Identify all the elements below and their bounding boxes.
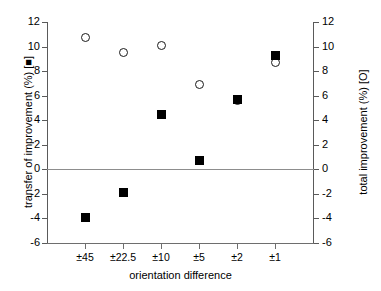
data-point-square-1 <box>119 188 128 197</box>
x-axis-line <box>47 243 314 244</box>
y-tick-right--2 <box>314 194 319 195</box>
x-tick-1 <box>123 244 124 249</box>
y-tick-left--2 <box>42 194 47 195</box>
data-point-square-2 <box>157 110 166 119</box>
y-tick-right-4 <box>314 120 319 121</box>
x-tick-label-1: ±22.5 <box>110 252 136 263</box>
y-tick-left--4 <box>42 218 47 219</box>
y-tick-label-left-12: 12 <box>28 16 40 27</box>
x-tick-label-0: ±45 <box>76 252 93 263</box>
y-tick-label-right--2: -2 <box>322 188 332 199</box>
y-tick-right-0 <box>314 169 319 170</box>
y-tick-label-right-4: 4 <box>322 114 328 125</box>
y-tick-label-left-2: 2 <box>34 139 40 150</box>
data-point-square-0 <box>81 213 90 222</box>
y-tick-right--4 <box>314 218 319 219</box>
y-tick-left-12 <box>42 22 47 23</box>
y-tick-label-left-0: 0 <box>34 163 40 174</box>
y-tick-label-left--6: -6 <box>30 237 40 248</box>
y-tick-label-right-0: 0 <box>322 163 328 174</box>
data-point-circle-3 <box>195 80 204 89</box>
scatter-chart: -6-4-2024681012 -6-4-2024681012 ±45±22.5… <box>0 0 381 291</box>
x-tick-2 <box>161 244 162 249</box>
x-tick-5 <box>275 244 276 249</box>
data-point-circle-1 <box>119 48 128 57</box>
y-tick-left-10 <box>42 47 47 48</box>
data-point-circle-2 <box>157 41 166 50</box>
y-tick-right-10 <box>314 47 319 48</box>
x-axis-title: orientation difference <box>47 269 314 281</box>
y-tick-right-12 <box>314 22 319 23</box>
x-tick-0 <box>85 244 86 249</box>
y-tick-right-8 <box>314 71 319 72</box>
data-point-square-3 <box>195 156 204 165</box>
x-tick-3 <box>199 244 200 249</box>
y-tick-label-right-6: 6 <box>322 90 328 101</box>
y-tick-label-right--4: -4 <box>322 212 332 223</box>
y-axis-left-title: transfer of improvement (%) [■] <box>22 42 34 222</box>
x-tick-label-2: ±10 <box>152 252 169 263</box>
x-tick-label-3: ±5 <box>193 252 205 263</box>
y-axis-left-line <box>47 22 48 243</box>
y-tick-left-4 <box>42 120 47 121</box>
data-point-square-4 <box>233 95 242 104</box>
y-tick-left-8 <box>42 71 47 72</box>
x-tick-label-5: ±1 <box>269 252 281 263</box>
y-tick-label-left-6: 6 <box>34 90 40 101</box>
y-axis-right-line <box>313 22 314 243</box>
x-tick-4 <box>237 244 238 249</box>
y-tick-right-6 <box>314 96 319 97</box>
y-tick-left-6 <box>42 96 47 97</box>
y-tick-right--6 <box>314 243 319 244</box>
y-tick-label-right--6: -6 <box>322 237 332 248</box>
y-axis-right-title: total improvement (%) [O] <box>357 42 369 222</box>
x-tick-label-4: ±2 <box>231 252 243 263</box>
y-tick-left--6 <box>42 243 47 244</box>
y-tick-label-right-12: 12 <box>322 16 334 27</box>
y-tick-right-2 <box>314 145 319 146</box>
y-tick-label-left-8: 8 <box>34 65 40 76</box>
data-point-circle-0 <box>81 33 90 42</box>
y-tick-label-right-10: 10 <box>322 41 334 52</box>
y-tick-label-left-4: 4 <box>34 114 40 125</box>
zero-reference-line <box>47 169 314 170</box>
data-point-square-5 <box>271 51 280 60</box>
y-tick-label-right-2: 2 <box>322 139 328 150</box>
y-tick-label-right-8: 8 <box>322 65 328 76</box>
y-tick-left-2 <box>42 145 47 146</box>
y-tick-left-0 <box>42 169 47 170</box>
